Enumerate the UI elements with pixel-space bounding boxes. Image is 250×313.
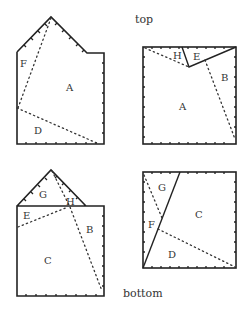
label-D: D [168, 249, 176, 260]
figure-bottom-left: G H E B C [17, 170, 104, 296]
cut-line-H [145, 48, 189, 67]
figure-top-right: H E B A [143, 47, 236, 144]
label-A: A [178, 101, 187, 112]
label-D: D [34, 125, 42, 136]
outline [17, 17, 104, 144]
label-H: H [66, 196, 75, 207]
caption-top: top [135, 13, 153, 26]
dissection-diagram: F A D top [0, 0, 250, 313]
figure-top-left: F A D [17, 17, 104, 144]
cut-line-B [52, 171, 102, 291]
label-G: G [158, 182, 166, 193]
label-B: B [221, 72, 228, 83]
label-F: F [148, 219, 155, 230]
cut-line-B [205, 60, 235, 139]
label-A: A [65, 82, 74, 93]
label-E: E [23, 210, 30, 221]
caption-bottom: bottom [123, 287, 163, 300]
label-E: E [193, 51, 200, 62]
label-C: C [44, 255, 52, 266]
label-H: H [173, 50, 182, 61]
solid-cut-HE [182, 47, 236, 67]
label-B: B [86, 224, 93, 235]
outline [143, 172, 236, 268]
figure-bottom-right: G C F D [143, 172, 236, 268]
label-C: C [195, 209, 203, 220]
cut-line-D [17, 108, 99, 144]
label-G: G [39, 189, 47, 200]
roof-ticks [24, 23, 84, 52]
outline [143, 47, 236, 144]
cut-line-D [158, 229, 235, 267]
label-F: F [20, 58, 27, 69]
